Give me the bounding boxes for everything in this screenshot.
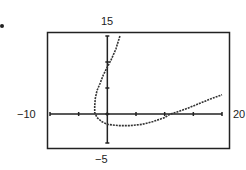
graph-window — [0, 0, 246, 170]
curve-plot — [95, 36, 222, 126]
axis-ticks — [50, 36, 222, 143]
graph-frame — [48, 33, 230, 149]
axes — [50, 36, 222, 143]
